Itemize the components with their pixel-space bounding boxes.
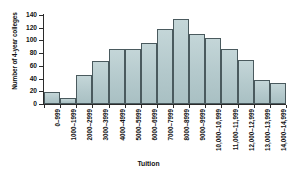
histogram-bar (205, 38, 221, 104)
y-axis-title: Number of 4-year colleges (9, 0, 21, 106)
histogram-bar (221, 49, 237, 104)
x-tick-label-cell: 8000–8999 (173, 109, 189, 155)
y-tick-mark (39, 104, 43, 105)
x-tick-label-cell: 3000–3999 (92, 109, 108, 155)
y-tick-label: 100 (26, 37, 37, 44)
x-axis-ticks: 0–9991000–19992000–29993000–39994000–499… (44, 105, 286, 155)
x-tick-label-cell: 4000–4999 (109, 109, 125, 155)
x-tick-label-cell: 6000–6999 (141, 109, 157, 155)
y-tick-mark (39, 28, 43, 29)
y-tick-mark (39, 91, 43, 92)
histogram-bar (254, 80, 270, 104)
x-tick-label-cell: 0–999 (44, 109, 60, 155)
y-tick-label: 120 (26, 24, 37, 31)
y-tick-mark (39, 15, 43, 16)
x-axis-title: Tuition (0, 160, 297, 167)
x-tick-label-cell: 12,000–12,999 (238, 109, 254, 155)
plot-area: 020406080100120140 (44, 15, 286, 104)
x-tick-label-cell: 9000–9999 (189, 109, 205, 155)
y-tick-label: 140 (26, 12, 37, 19)
x-tick-label-cell: 7000–7999 (157, 109, 173, 155)
x-tick-label-cell: 11,000–11,999 (221, 109, 237, 155)
histogram-bar (109, 49, 125, 104)
x-tick-mark (238, 105, 239, 108)
x-tick-label-cell: 1000–1999 (60, 109, 76, 155)
histogram-bar (76, 75, 92, 104)
histogram-bar (270, 83, 286, 104)
y-tick-label: 60 (30, 63, 37, 70)
y-tick-label: 40 (30, 75, 37, 82)
x-tick-label-cell: 5000–5999 (125, 109, 141, 155)
y-tick-label: 0 (33, 101, 37, 108)
histogram-bar (60, 98, 76, 104)
histogram-bar (173, 19, 189, 104)
y-tick-mark (39, 40, 43, 41)
histogram-bar (238, 60, 254, 104)
x-tick-mark (221, 105, 222, 108)
histogram-bar (92, 61, 108, 104)
x-tick-mark (286, 105, 287, 108)
x-tick-mark (44, 105, 45, 108)
histogram-bar (189, 34, 205, 104)
x-tick-label-cell: 2000–2999 (76, 109, 92, 155)
x-tick-label: 14,000–14,999 (281, 109, 287, 151)
histogram-figure: Number of 4-year colleges 02040608010012… (0, 0, 297, 175)
histogram-bar (125, 49, 141, 104)
y-tick-mark (39, 66, 43, 67)
histogram-bar (44, 92, 60, 104)
y-tick-mark (39, 79, 43, 80)
histogram-bar (141, 43, 157, 104)
bar-series (44, 15, 286, 104)
x-tick-label-cell: 13,000–13,999 (254, 109, 270, 155)
x-tick-label-cell: 10,000–10,999 (205, 109, 221, 155)
x-tick-mark (254, 105, 255, 108)
x-tick-label-cell: 14,000–14,999 (270, 109, 286, 155)
histogram-bar (157, 29, 173, 104)
y-tick-label: 20 (30, 88, 37, 95)
y-tick-label: 80 (30, 50, 37, 57)
y-tick-mark (39, 53, 43, 54)
x-tick-mark (270, 105, 271, 108)
